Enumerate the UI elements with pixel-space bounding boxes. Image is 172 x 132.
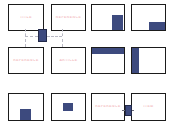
block-bottom-right-tall — [112, 15, 123, 30]
slide-thumbnail-content: REFERENCE — [52, 5, 85, 30]
slide-thumbnail-label: REFERENCE — [9, 59, 43, 62]
slide-thumbnail-3-4[interactable]: ITEM — [131, 93, 166, 121]
connector-bar-right — [47, 36, 62, 37]
slide-thumbnail-2-4[interactable] — [131, 47, 166, 74]
thumbnail-grid-canvas: TITLEREFERENCEREFERENCEARTICLEREFERENCEI… — [0, 0, 172, 132]
connector-up-left — [25, 29, 26, 36]
slide-thumbnail-content — [132, 48, 165, 73]
block-top-banner — [92, 48, 124, 54]
block-left-sidebar — [132, 48, 139, 73]
slide-thumbnail-label: TITLE — [9, 16, 43, 19]
slide-thumbnail-label: REFERENCE — [52, 16, 85, 19]
slide-thumbnail-3-3[interactable]: REFERENCE — [91, 93, 125, 121]
connector-hub-top[interactable] — [38, 29, 47, 42]
slide-thumbnail-content: ITEM — [132, 94, 165, 120]
slide-thumbnail-content — [92, 5, 124, 30]
slide-thumbnail-label: REFERENCE — [92, 105, 124, 108]
slide-thumbnail-3-2[interactable] — [51, 93, 86, 121]
slide-thumbnail-content — [9, 94, 43, 120]
slide-thumbnail-label: ARTICLE — [52, 59, 85, 62]
connector-down-left — [25, 39, 26, 47]
slide-thumbnail-2-3[interactable] — [91, 47, 125, 74]
connector-up-right — [62, 29, 63, 36]
block-bottom-center — [20, 109, 32, 120]
slide-thumbnail-1-1[interactable]: TITLE — [8, 4, 44, 31]
slide-thumbnail-content: REFERENCE — [9, 48, 43, 73]
slide-thumbnail-content — [132, 5, 165, 30]
slide-thumbnail-3-1[interactable] — [8, 93, 44, 121]
connector-down-right — [62, 39, 63, 47]
slide-thumbnail-content — [92, 48, 124, 73]
block-center — [63, 103, 74, 111]
slide-thumbnail-content: TITLE — [9, 5, 43, 30]
slide-thumbnail-2-1[interactable]: REFERENCE — [8, 47, 44, 74]
slide-thumbnail-content — [52, 94, 85, 120]
slide-thumbnail-1-3[interactable] — [91, 4, 125, 31]
slide-thumbnail-label: ITEM — [132, 105, 165, 108]
slide-thumbnail-2-2[interactable]: ARTICLE — [51, 47, 86, 74]
connector-bar-left — [25, 36, 38, 37]
slide-thumbnail-1-2[interactable]: REFERENCE — [51, 4, 86, 31]
slide-thumbnail-content: REFERENCE — [92, 94, 124, 120]
connector-hub-bottom[interactable] — [125, 105, 132, 116]
slide-thumbnail-1-4[interactable] — [131, 4, 166, 31]
block-bottom-right-wide — [149, 22, 166, 30]
slide-thumbnail-content: ARTICLE — [52, 48, 85, 73]
